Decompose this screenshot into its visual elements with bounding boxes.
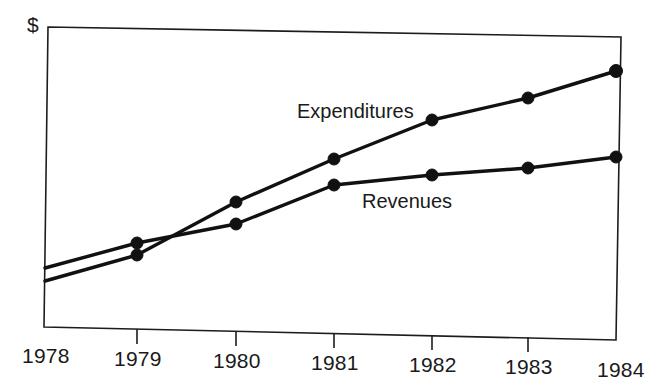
data-point-revenues-1980 xyxy=(230,218,242,230)
data-point-revenues-1979 xyxy=(131,237,143,249)
data-point-expenditures-1984 xyxy=(610,65,623,78)
data-point-revenues-1981 xyxy=(328,179,340,191)
data-point-expenditures-1979 xyxy=(131,249,143,261)
data-point-expenditures-1981 xyxy=(328,153,340,165)
x-axis-label-1983: 1983 xyxy=(505,356,553,377)
x-axis-label-1982: 1982 xyxy=(409,354,457,375)
data-point-revenues-1982 xyxy=(426,169,438,181)
data-point-revenues-1983 xyxy=(522,162,534,174)
x-axis-label-1980: 1980 xyxy=(213,350,261,371)
x-axis-label-1984: 1984 xyxy=(597,359,645,380)
series-label-expenditures: Expenditures xyxy=(297,101,414,121)
x-axis-label-1981: 1981 xyxy=(311,352,359,373)
chart-plot-area xyxy=(0,0,659,385)
x-axis-label-1979: 1979 xyxy=(114,348,162,369)
data-point-revenues-1984 xyxy=(610,151,622,163)
x-axis-label-1978: 1978 xyxy=(22,345,70,366)
series-label-revenues: Revenues xyxy=(362,191,452,211)
line-chart-figure: $ Expenditures Revenues 1978 1979 198 xyxy=(0,0,659,385)
data-point-expenditures-1982 xyxy=(426,114,438,126)
data-point-expenditures-1980 xyxy=(230,196,242,208)
data-point-expenditures-1983 xyxy=(522,92,534,104)
